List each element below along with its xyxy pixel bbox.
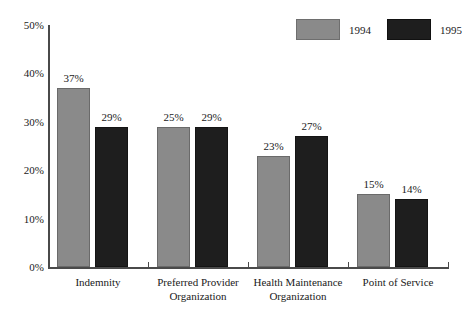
category-label-health-maintenance-organization: Health Maintenance Organization — [248, 275, 348, 303]
bar-value-indemnity-1995: 29% — [89, 112, 134, 123]
y-tick-label-10: 10% — [4, 214, 44, 225]
y-tick-label-30: 30% — [4, 117, 44, 128]
bar-group-preferred-provider-organization: 25% 29% — [148, 25, 248, 267]
category-label-ppo-line2: Organization — [148, 289, 248, 303]
bar-pos-1995[interactable] — [395, 199, 428, 267]
category-label-point-of-service: Point of Service — [348, 275, 448, 289]
category-label-pos-line1: Point of Service — [363, 276, 434, 288]
bar-pos-1994[interactable] — [357, 194, 390, 267]
category-label-ppo-line1: Preferred Provider — [157, 276, 239, 288]
y-tick-label-40: 40% — [4, 68, 44, 79]
bar-group-health-maintenance-organization: 23% 27% — [248, 25, 348, 267]
bar-value-ppo-1995: 29% — [189, 112, 234, 123]
bar-hmo-1994[interactable] — [257, 156, 290, 267]
bar-group-point-of-service: 15% 14% — [348, 25, 448, 267]
bar-value-indemnity-1994: 37% — [51, 73, 96, 84]
plot-area: 37% 29% 25% 29% 23% 27% — [48, 25, 449, 267]
bar-indemnity-1995[interactable] — [95, 127, 128, 267]
bar-ppo-1994[interactable] — [157, 127, 190, 267]
bar-indemnity-1994[interactable] — [57, 88, 90, 267]
bar-value-hmo-1994: 23% — [251, 141, 296, 152]
y-tick-label-50: 50% — [4, 20, 44, 31]
category-label-indemnity-line1: Indemnity — [75, 276, 120, 288]
clipped-header-text — [30, 0, 290, 5]
category-label-indemnity: Indemnity — [48, 275, 148, 289]
x-axis-category-labels: Indemnity Preferred Provider Organizatio… — [48, 275, 449, 311]
category-label-hmo-line1: Health Maintenance — [254, 276, 343, 288]
y-axis-tick-labels: 50% 40% 30% 20% 10% 0% — [0, 0, 44, 311]
bar-group-indemnity: 37% 29% — [48, 25, 148, 267]
bar-hmo-1995[interactable] — [295, 136, 328, 267]
category-label-preferred-provider-organization: Preferred Provider Organization — [148, 275, 248, 303]
y-tick-label-20: 20% — [4, 165, 44, 176]
bar-value-pos-1995: 14% — [389, 184, 434, 195]
bar-value-hmo-1995: 27% — [289, 121, 334, 132]
y-tick-label-0: 0% — [4, 262, 44, 273]
bar-ppo-1995[interactable] — [195, 127, 228, 267]
category-label-hmo-line2: Organization — [248, 289, 348, 303]
